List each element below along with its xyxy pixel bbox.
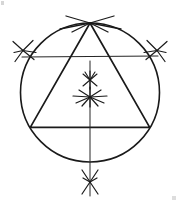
- corner-speck-top-left: [1, 1, 4, 5]
- geometric-construction-figure: Compass and straightedge construction: e…: [0, 0, 180, 204]
- corner-speck-bottom-right: [172, 196, 176, 200]
